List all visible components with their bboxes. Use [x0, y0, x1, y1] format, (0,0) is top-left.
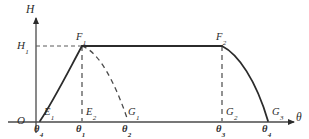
point-label-e2: E2 — [86, 107, 96, 120]
point-letter: G — [226, 106, 234, 117]
tick-subscript: 4 — [40, 131, 44, 139]
y-value-subscript: 1 — [25, 48, 29, 56]
tick-subscript: 1 — [82, 131, 86, 139]
point-subscript: 1 — [51, 114, 55, 122]
y-value-label-h1: H1 — [17, 40, 28, 54]
tick-subscript: 2 — [128, 131, 132, 139]
point-letter: E — [44, 106, 50, 117]
tick-subscript: 4 — [268, 131, 272, 139]
point-letter: G — [128, 106, 136, 117]
point-subscript: 2 — [234, 114, 238, 122]
point-label-g1: G1 — [128, 107, 139, 120]
point-letter: F — [76, 31, 82, 42]
tick-letter: θ — [76, 123, 81, 134]
point-subscript: 2 — [93, 114, 97, 122]
figure-container: H θ O H1 θ4 θ1 θ2 θ3 θ4 E1 E2 G1 G2 G3 F… — [0, 0, 309, 139]
x-tick-label-theta1: θ1 — [76, 124, 85, 137]
tick-letter: θ — [122, 123, 127, 134]
point-subscript: 2 — [223, 39, 227, 47]
point-label-f2: F2 — [216, 32, 226, 45]
y-value-letter: H — [17, 39, 25, 51]
tick-letter: θ — [34, 123, 39, 134]
point-label-g2: G2 — [226, 107, 237, 120]
point-subscript: 1 — [83, 39, 87, 47]
tick-letter: θ — [216, 123, 221, 134]
x-tick-label-theta2: θ2 — [122, 124, 131, 137]
point-subscript: 3 — [280, 114, 284, 122]
point-label-f1: F1 — [76, 32, 86, 45]
x-tick-label-theta4-right: θ4 — [262, 124, 271, 137]
point-letter: F — [216, 31, 222, 42]
x-tick-label-theta4-left: θ4 — [34, 124, 43, 137]
point-label-g3: G3 — [272, 107, 283, 120]
tick-subscript: 3 — [222, 131, 226, 139]
point-label-e1: E1 — [44, 107, 54, 120]
point-letter: E — [86, 106, 92, 117]
y-axis-label: H — [26, 4, 34, 16]
x-axis-label: θ — [296, 112, 302, 124]
origin-label: O — [17, 115, 25, 126]
tick-letter: θ — [262, 123, 267, 134]
point-subscript: 1 — [136, 114, 140, 122]
point-letter: G — [272, 106, 280, 117]
x-tick-label-theta3: θ3 — [216, 124, 225, 137]
